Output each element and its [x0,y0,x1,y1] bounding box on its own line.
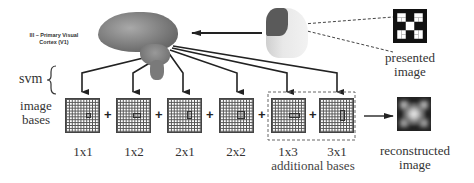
basis-grid-1x2 [116,98,151,133]
reconstructed-label: reconstructed image [373,144,457,172]
basis-grid-3x1 [319,98,354,133]
presented-image [393,9,427,43]
plus-1: + [104,107,112,122]
brainstem-image [150,60,164,80]
basis-label-2x2: 2x2 [216,144,256,160]
basis-label-1x1: 1x1 [63,144,103,160]
additional-bases-label: additional bases [263,158,363,174]
plus-5: + [309,107,317,122]
v1-label: III – Primary Visual Cortex (V1) [24,32,84,46]
svm-label: svm [19,71,42,87]
x-pattern-icon [393,9,427,43]
basis-label-1x2: 1x2 [114,144,154,160]
plus-4: + [258,107,266,122]
basis-grid-2x2 [219,98,254,133]
plus-3: + [206,107,214,122]
face-image [266,8,308,58]
image-bases-label: image bases [14,99,58,127]
presented-label: presented image [378,51,442,79]
basis-label-2x1: 2x1 [165,144,205,160]
basis-grid-1x1 [65,98,100,133]
basis-grid-2x1 [167,98,202,133]
basis-grid-1x3 [271,98,306,133]
plus-2: + [155,107,163,122]
reconstructed-image [397,97,431,131]
